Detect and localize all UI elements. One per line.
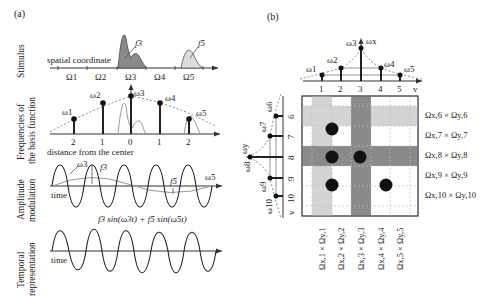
amp-time-label: time [51,190,67,200]
x-var: v [413,84,418,94]
omega-2: ω2 [90,90,100,100]
region-omega-5: Ω5 [183,72,195,82]
x-omega-2: ω2 [327,55,337,65]
row-label-amplitude-2: modulation [27,178,37,222]
row-label-temporal-1: Temporal [16,251,26,288]
col-label-4: Ωx,4 × Ωy,4 [376,227,386,270]
spatial-coordinate-label: spatial coordinate [47,55,111,65]
omega-3: ω3 [134,88,145,98]
col-label-2: Ωx,2 × Ωy,2 [336,228,346,270]
distance-tick-1-right: 1 [157,137,162,147]
x-omega-4: ω4 [384,59,395,69]
row-label-frequencies-1: Frequencies of [16,103,26,160]
distance-tick-2-left: 2 [71,137,76,147]
region-omega-4: Ω4 [154,72,166,82]
x-tick-5: 5 [397,84,402,94]
x-tick-3: 3 [358,84,363,94]
temporal-plot [50,229,222,273]
x-tick-1: 1 [319,84,324,94]
x-omega-1: ω1 [306,64,316,74]
amp-f5-label: f5 [170,176,178,186]
f5-label: f5 [198,38,206,48]
distance-tick-2-right: 2 [186,137,191,147]
amp-omega3-label: ω3 [77,159,88,169]
col-label-5: Ωx,5 × Ωy,5 [395,228,405,270]
y-axis-omega: ωy [239,143,249,154]
y-omega-8: ω8 [242,161,252,172]
y-var: v [286,210,296,215]
distance-tick-1-left: 1 [100,137,105,147]
amp-f3-label: f3 [100,162,108,172]
y-tick-10: 10 [286,194,296,204]
row-label-7: Ωx,7 × Ωy,7 [425,130,467,140]
region-omega-3: Ω3 [125,72,137,82]
temporal-time-label: time [51,255,67,265]
y-tick-6: 6 [286,114,296,119]
x-axis-omega: ωx [366,36,377,46]
y-tick-9: 9 [286,176,296,181]
panel-b-label: (b) [267,11,279,23]
x-omega-5: ω5 [404,64,415,74]
row-label-stimulus: Stimulus [16,44,26,78]
amplitude-plot [50,165,222,207]
omega-5: ω5 [196,108,207,118]
row-label-10: Ωx,10 × Ωy,10 [425,190,476,200]
col-label-3: Ωx,3 × Ωy,3 [356,228,366,270]
panel-a-label: (a) [14,8,25,20]
x-tick-4: 4 [378,84,383,94]
figure: (a) Stimulus Frequencies of the basis fu… [0,0,488,297]
row-label-8: Ωx,8 × Ωy,8 [425,150,467,160]
x-omega-3: ω3 [346,38,357,48]
region-omega-1: Ω1 [66,72,77,82]
formula-label: f3 sin(ω3t) + f5 sin(ω5t) [98,214,187,224]
row-label-6: Ωx,6 × Ωy,6 [425,110,467,120]
y-tick-8: 8 [286,155,296,160]
row-label-9: Ωx,9 × Ωy,9 [425,170,467,180]
omega-4: ω4 [165,93,176,103]
x-tick-2: 2 [338,84,343,94]
stimulus-plot [50,35,218,71]
col-label-1: Ωx,1 × Ωy,1 [317,228,327,270]
row-label-frequencies-2: the basis function [27,97,37,164]
y-tick-7: 7 [286,134,296,139]
row-label-amplitude-1: Amplitude [16,179,26,220]
amp-omega5-label: ω5 [205,172,216,182]
distance-tick-0: 0 [128,137,133,147]
y-omega-7: ω7 [258,121,268,132]
y-omega-10: ω10 [264,199,274,214]
f3-label: f3 [135,38,143,48]
row-label-temporal-2: representation [27,242,37,296]
y-omega-6: ω6 [264,101,274,112]
product-grid [302,96,418,216]
region-omega-2: Ω2 [95,72,106,82]
x-frequency-plot [300,38,422,84]
omega-1: ω1 [62,107,72,117]
y-omega-9: ω9 [258,181,268,192]
distance-axis-label: distance from the center [47,147,134,157]
